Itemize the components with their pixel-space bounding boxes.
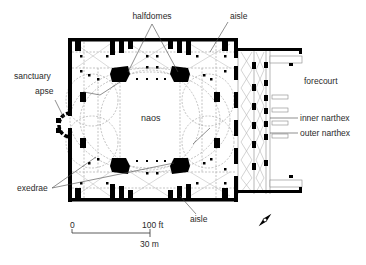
scale-end-label-m: 30 m [140,240,159,249]
label-apse: apse [35,87,53,96]
north-arrow-icon [257,212,273,228]
label-halfdomes: halfdomes [132,12,171,21]
label-forecourt: forecourt [304,77,338,86]
label-aisle-top: aisle [230,12,247,21]
scale-end-label-ft: 100 ft [142,221,163,230]
label-aisle-bottom: aisle [190,215,207,224]
label-sanctuary: sanctuary [14,72,51,81]
label-outer-narthex: outer narthex [300,129,350,138]
label-naos: naos [141,114,161,123]
label-exedrae: exedrae [17,184,48,193]
narthex-lines [238,50,302,194]
scale-bar [72,229,150,237]
scale-start-label: 0 [70,221,75,230]
label-inner-narthex: inner narthex [300,114,350,123]
